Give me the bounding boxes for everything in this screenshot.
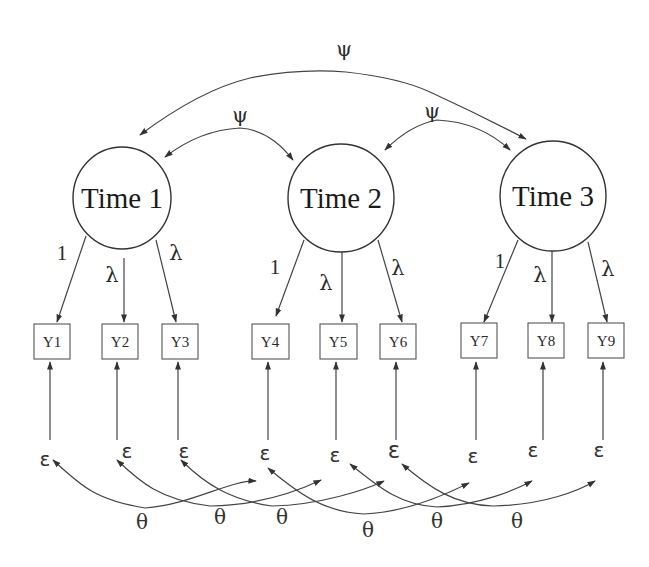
error-term-3: ε [179,439,190,463]
svg-text:Y5: Y5 [329,334,347,350]
covariance-arc-t2-t3 [385,120,510,150]
latent-factor-time1: Time 1 [73,147,171,249]
loading-arrow-y9 [588,242,607,322]
loading-label-y5: λ [319,271,332,295]
error-cov-arc-2-5 [117,460,321,506]
latent-factor-time2: Time 2 [288,144,394,252]
covariance-arc-t1-t2 [165,128,293,160]
error-cov-arc-5-8 [350,464,532,507]
theta-label-1: θ [136,510,148,534]
error-term-4: ε [260,441,271,465]
covariance-arc-t1-t3 [140,71,526,139]
indicator-y7: Y7 [461,323,497,358]
error-term-6: ε [388,437,400,463]
theta-label-4: θ [362,518,374,542]
psi-label-left: ψ [232,103,248,127]
svg-text:Y2: Y2 [111,334,129,350]
loading-arrow-y6 [378,240,402,322]
error-term-7: ε [468,444,479,468]
loading-label-y1: 1 [57,241,68,265]
psi-label-right: ψ [424,99,440,123]
loading-label-y2: λ [105,263,118,287]
psi-label-top: ψ [336,37,352,61]
latent-factors: Time 1 Time 2 Time 3 [73,141,606,252]
indicator-y3: Y3 [162,324,198,359]
indicator-y4: Y4 [252,324,289,359]
svg-text:Y7: Y7 [470,333,489,349]
indicator-y5: Y5 [320,324,357,359]
loading-label-y8: λ [533,263,546,287]
error-term-2: ε [122,439,133,463]
latent-factor-time3: Time 3 [500,141,606,251]
indicator-y2: Y2 [102,324,138,359]
theta-label-3: θ [276,505,288,529]
indicator-y6: Y6 [380,324,416,359]
latent-label-time3: Time 3 [512,180,594,212]
svg-text:Y6: Y6 [389,334,408,350]
indicator-y1: Y1 [34,324,70,359]
loading-label-y4: 1 [270,255,281,279]
loading-label-y6: λ [391,256,404,280]
observed-indicators: Y1 Y2 Y3 Y4 Y5 Y6 Y7 Y8 Y9 [34,323,624,359]
theta-label-2: θ [214,505,226,529]
svg-text:Y4: Y4 [261,334,280,350]
loading-label-y3: λ [169,241,182,265]
indicator-y9: Y9 [588,323,624,358]
indicator-y8: Y8 [528,323,564,358]
path-diagram: ψ ψ ψ 1 λ λ 1 λ λ 1 λ λ Time 1 Time 2 [0,0,649,567]
loading-label-y7: 1 [495,249,506,273]
svg-text:Y9: Y9 [597,333,615,349]
error-paths [50,362,603,440]
svg-text:Y1: Y1 [43,334,61,350]
latent-label-time2: Time 2 [300,182,382,214]
theta-label-5: θ [431,509,443,533]
svg-text:Y3: Y3 [171,334,189,350]
error-term-9: ε [594,438,605,462]
error-term-1: ε [40,447,51,471]
error-covariances: θ θ θ θ θ θ [53,460,595,542]
loading-label-y9: λ [601,257,614,281]
theta-label-6: θ [511,509,523,533]
svg-text:Y8: Y8 [537,333,555,349]
error-terms: ε ε ε ε ε ε ε ε ε [40,437,605,471]
latent-label-time1: Time 1 [81,182,163,214]
factor-covariances: ψ ψ ψ [140,37,526,160]
error-term-8: ε [528,438,539,462]
error-term-5: ε [330,443,341,467]
error-cov-arc-1-4-main [53,460,256,508]
